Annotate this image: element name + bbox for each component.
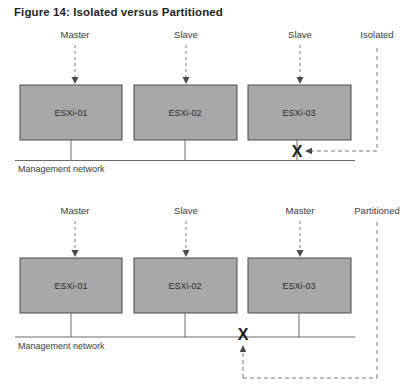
host-name-esxi-02-partitioned: ESXi-02 [168,281,201,291]
role-label-host-3-partitioned: Master [285,205,314,216]
management-network-label-isolated: Management network [18,164,105,174]
network-break-x-partitioned: X [238,326,249,343]
role-label-host-1-isolated: Master [60,29,89,40]
partition-arrow-head-partitioned [240,345,246,352]
host-name-esxi-02-isolated: ESXi-02 [168,108,201,118]
arrow-head-host-1-partitioned [72,250,79,257]
isolation-arrow-head-isolated [305,148,312,154]
management-network-label-partitioned: Management network [18,341,105,351]
arrow-head-host-1-isolated [72,77,79,84]
host-name-esxi-03-isolated: ESXi-03 [282,108,315,118]
arrow-head-host-2-partitioned [183,250,190,257]
role-label-host-3-isolated: Slave [288,29,312,40]
state-label-isolated: Isolated [360,29,393,40]
host-name-esxi-01-isolated: ESXi-01 [54,108,87,118]
host-name-esxi-01-partitioned: ESXi-01 [54,281,87,291]
figure-container: Figure 14: Isolated versus Partitioned M… [0,0,419,391]
role-label-host-2-partitioned: Slave [174,205,198,216]
role-label-host-2-isolated: Slave [174,29,198,40]
arrow-head-host-3-partitioned [297,250,304,257]
host-name-esxi-03-partitioned: ESXi-03 [282,281,315,291]
arrow-head-host-3-isolated [297,77,304,84]
diagram-isolated: Master Slave Slave Isolated ESXi-01 [15,29,394,174]
diagram-partitioned: Master Slave Master Partitioned ESXi-01 [15,205,400,378]
arrow-head-host-2-isolated [183,77,190,84]
network-break-x-isolated: X [292,143,303,160]
role-label-host-1-partitioned: Master [60,205,89,216]
figure-diagrams: Master Slave Slave Isolated ESXi-01 [0,0,419,391]
state-label-partitioned: Partitioned [354,205,399,216]
